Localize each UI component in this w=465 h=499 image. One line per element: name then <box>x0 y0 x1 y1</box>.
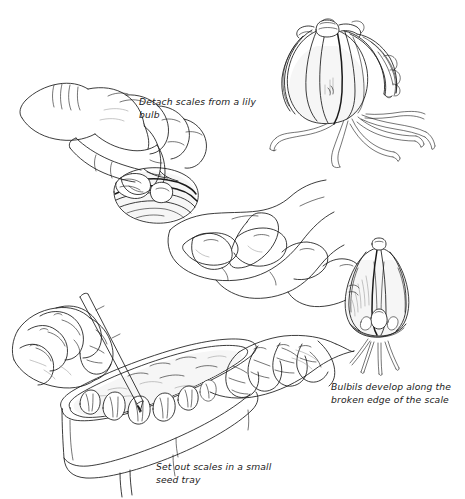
caption-set-out-scales: Set out scales in a small seed tray <box>156 461 282 486</box>
illustration-page: .ln { fill:none; stroke:#1a1a1a; stroke-… <box>0 0 465 499</box>
bulbil-primary <box>371 309 387 329</box>
caption-bulbils-develop: Bulbils develop along the broken edge of… <box>331 381 456 406</box>
scale-tip <box>372 238 386 250</box>
lily-scaling-illustration: .ln { fill:none; stroke:#1a1a1a; stroke-… <box>0 0 465 499</box>
detaching-scale <box>150 182 172 202</box>
caption-detach-scales: Detach scales from a lily bulb <box>139 96 259 121</box>
